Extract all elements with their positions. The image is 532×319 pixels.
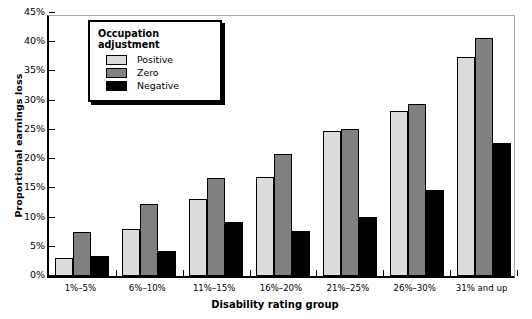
x-tick <box>517 270 518 276</box>
x-tick-label: 11%–15% <box>181 283 248 293</box>
legend-item: Negative <box>106 80 212 91</box>
bar-negative <box>158 251 176 276</box>
bar-zero <box>207 178 225 276</box>
y-tick-label: 40% <box>24 35 45 46</box>
bar-group <box>316 16 383 276</box>
y-tick-label: 10% <box>24 211 45 222</box>
x-tick-label: 21%–25% <box>314 283 381 293</box>
y-tick-label: 35% <box>24 64 45 75</box>
bar-zero <box>475 38 493 276</box>
x-tick-label: 6%–10% <box>114 283 181 293</box>
bar-positive <box>457 57 475 276</box>
bar-group <box>250 16 317 276</box>
bar-negative <box>91 256 109 276</box>
legend-label: Zero <box>137 67 159 78</box>
legend-item: Positive <box>106 54 212 65</box>
bar-positive <box>189 199 207 276</box>
legend-title: Occupation adjustment <box>98 28 212 50</box>
bar-positive <box>55 258 73 276</box>
legend-item: Zero <box>106 67 212 78</box>
x-tick-label: 26%–30% <box>381 283 448 293</box>
bar-zero <box>341 129 359 276</box>
x-axis-title: Disability rating group <box>40 299 510 310</box>
y-tick-label: 45% <box>24 6 45 17</box>
bar-chart: Proportional earnings loss Disability ra… <box>0 0 532 319</box>
legend-swatch-zero <box>106 68 127 78</box>
bar-positive <box>323 131 341 276</box>
bar-group <box>383 16 450 276</box>
bar-zero <box>73 232 91 276</box>
bar-positive <box>256 177 274 276</box>
bar-group <box>450 16 517 276</box>
y-axis-title: Proportional earnings loss <box>13 46 24 246</box>
y-tick-label: 5% <box>30 240 45 251</box>
bar-positive <box>122 229 140 276</box>
legend-swatch-negative <box>106 81 127 91</box>
y-tick-label: 0% <box>30 269 45 280</box>
y-tick-label: 15% <box>24 181 45 192</box>
legend-swatch-positive <box>106 55 127 65</box>
x-tick-label: 16%–20% <box>248 283 315 293</box>
y-tick-label: 30% <box>24 94 45 105</box>
bar-zero <box>140 204 158 276</box>
y-tick-label: 20% <box>24 152 45 163</box>
x-tick-label: 1%–5% <box>47 283 114 293</box>
bar-negative <box>426 190 444 276</box>
bar-zero <box>274 154 292 276</box>
bar-negative <box>225 222 243 276</box>
legend: Occupation adjustment PositiveZeroNegati… <box>88 20 222 102</box>
x-tick-label: 31% and up <box>448 283 515 293</box>
bar-negative <box>292 231 310 276</box>
legend-label: Positive <box>137 54 173 65</box>
bar-positive <box>390 111 408 276</box>
legend-items: PositiveZeroNegative <box>98 54 212 91</box>
bar-negative <box>359 217 377 276</box>
bar-negative <box>493 143 511 276</box>
y-tick: 45% <box>49 12 55 13</box>
bar-zero <box>408 104 426 276</box>
y-tick-label: 25% <box>24 123 45 134</box>
legend-label: Negative <box>137 80 179 91</box>
